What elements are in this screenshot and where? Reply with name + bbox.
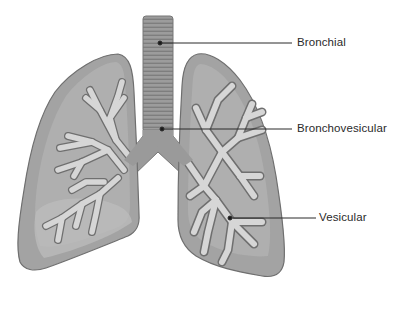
left-lung <box>18 54 139 270</box>
label-bronchial: Bronchial <box>297 36 346 48</box>
right-lung <box>178 54 285 277</box>
label-bronchovesicular: Bronchovesicular <box>297 122 387 134</box>
lung-diagram <box>0 0 413 310</box>
label-vesicular: Vesicular <box>319 211 367 223</box>
